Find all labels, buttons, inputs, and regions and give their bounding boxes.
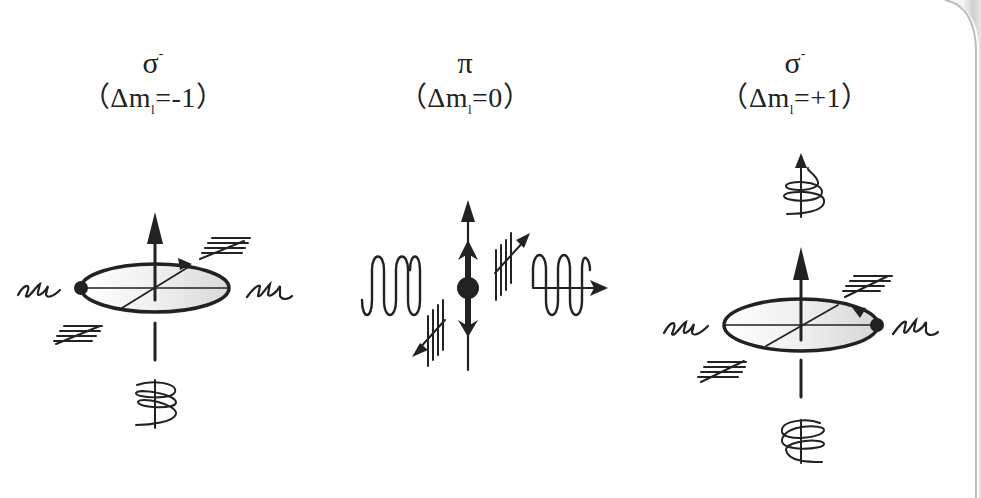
linear-wave-hatch-icon <box>843 276 892 297</box>
zeeman-polarization-diagram <box>0 0 981 498</box>
orbit-disk-icon <box>724 299 884 351</box>
linear-wave-hatch-icon <box>200 238 250 259</box>
zigzag-wave-icon <box>247 284 292 299</box>
zigzag-wave-icon <box>664 322 708 335</box>
zigzag-wave-icon <box>893 320 938 335</box>
panel-sigma-minus <box>18 212 292 428</box>
linear-wave-hatch-arrow-icon <box>412 300 445 366</box>
panel-sigma-plus <box>664 153 938 463</box>
linear-wave-hatch-icon <box>698 361 746 382</box>
linear-wave-hatch-arrow-icon <box>495 233 530 300</box>
sine-wave-icon <box>362 257 420 316</box>
linear-wave-hatch-icon <box>54 326 102 344</box>
helix-wave-icon <box>136 380 176 428</box>
zigzag-wave-icon <box>18 284 60 297</box>
field-arrow-up-icon <box>461 200 475 222</box>
helix-wave-arrow-icon <box>784 153 824 217</box>
panel-pi <box>362 200 608 370</box>
sine-wave-arrow-icon <box>533 255 608 315</box>
helix-wave-icon <box>782 420 824 463</box>
dipole-oscillation-icon <box>457 240 479 337</box>
orbit-disk-icon <box>74 258 229 312</box>
